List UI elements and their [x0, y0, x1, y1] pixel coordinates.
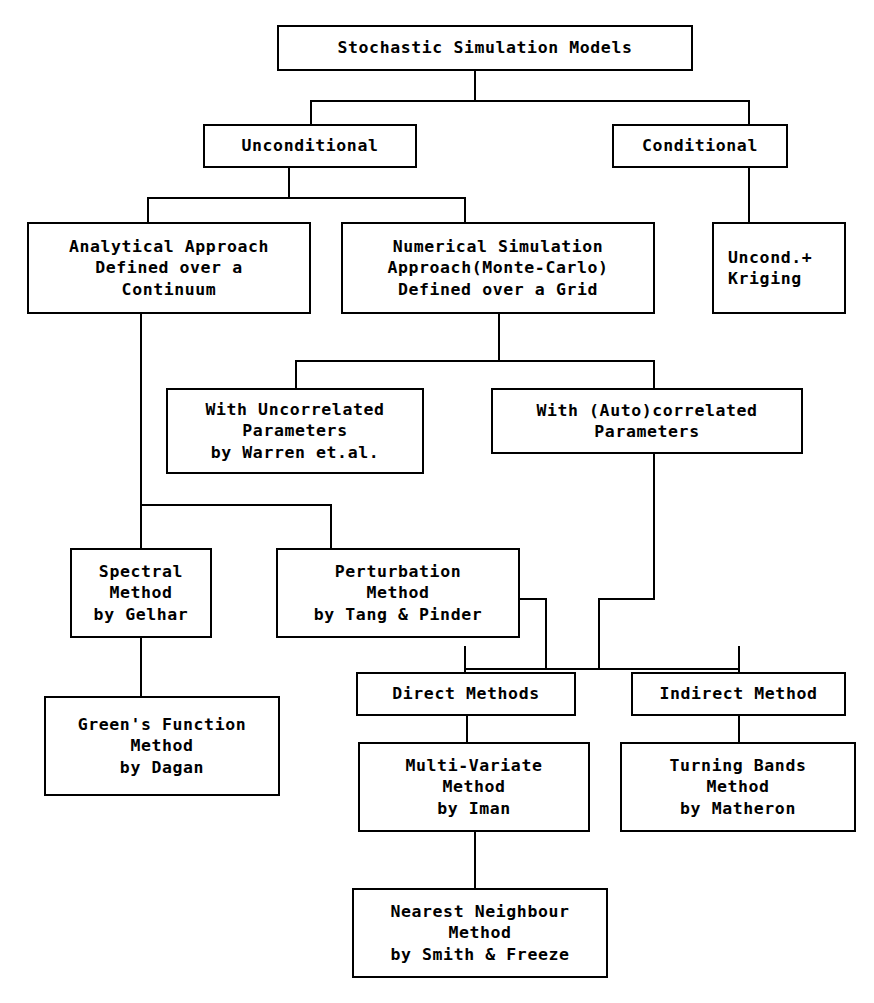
- node-text-line: by Dagan: [120, 757, 204, 778]
- bus-to-direct: [464, 646, 466, 672]
- node-text-line: by Smith & Freeze: [390, 944, 569, 965]
- node-text-line: by Tang & Pinder: [314, 604, 483, 625]
- node-text-line: Perturbation: [335, 561, 461, 582]
- bus-to-unconditional: [310, 100, 312, 126]
- node-text-line: Unconditional: [242, 135, 379, 156]
- analytical-down: [140, 314, 142, 506]
- node-text-line: Method: [706, 776, 769, 797]
- node-text-line: Turning Bands: [670, 755, 807, 776]
- node-text-line: Conditional: [642, 135, 758, 156]
- node-text-line: Spectral: [99, 561, 183, 582]
- node-text-line: Multi-Variate: [406, 755, 543, 776]
- indirect-to-turningbands: [738, 716, 740, 744]
- node-text-line: Method: [442, 776, 505, 797]
- node-text-line: Continuum: [122, 279, 217, 300]
- bus-to-conditional: [748, 100, 750, 126]
- conditional-to-kriging: [748, 168, 750, 224]
- bus-to-perturbation: [330, 504, 332, 550]
- node-text-line: Analytical Approach: [69, 236, 269, 257]
- node-text-line: Kriging: [728, 268, 802, 289]
- direct-methods: Direct Methods: [356, 672, 576, 716]
- analytical-approach: Analytical ApproachDefined over aContinu…: [27, 222, 311, 314]
- bus-to-analytical: [147, 197, 149, 224]
- node-text-line: Defined over a: [95, 257, 242, 278]
- level3-bus: [295, 360, 655, 362]
- multivariate-to-nearest: [474, 832, 476, 890]
- bus-to-autocorrelated: [653, 360, 655, 390]
- node-text-line: Method: [448, 922, 511, 943]
- node-text-line: With (Auto)correlated: [536, 400, 757, 421]
- bus-to-indirect: [738, 646, 740, 672]
- node-text-line: Stochastic Simulation Models: [338, 37, 633, 58]
- level1-bus: [310, 100, 750, 102]
- numerical-down: [498, 314, 500, 362]
- direct-to-multivariate: [466, 716, 468, 744]
- with-autocorrelated-parameters: With (Auto)correlatedParameters: [491, 388, 803, 454]
- node-text-line: Approach(Monte-Carlo): [387, 257, 608, 278]
- node-text-line: Parameters: [242, 420, 347, 441]
- level2-bus: [147, 197, 466, 199]
- spectral-method-gelhar: SpectralMethodby Gelhar: [70, 548, 212, 638]
- turning-bands-method-matheron: Turning BandsMethodby Matheron: [620, 742, 856, 832]
- root-to-bus: [474, 71, 476, 102]
- node-text-line: Parameters: [594, 421, 699, 442]
- nearest-neighbour-method-smith-freeze: Nearest NeighbourMethodby Smith & Freeze: [352, 888, 608, 978]
- multi-variate-method-iman: Multi-VariateMethodby Iman: [358, 742, 590, 832]
- node-text-line: Method: [130, 735, 193, 756]
- indirect-method: Indirect Method: [631, 672, 846, 716]
- spectral-to-greens: [140, 638, 142, 698]
- node-text-line: by Warren et.al.: [211, 442, 380, 463]
- level5-bus: [464, 668, 739, 670]
- node-text-line: Method: [109, 582, 172, 603]
- bus-to-spectral: [140, 504, 142, 550]
- unconditional-down: [288, 168, 290, 199]
- perturbation-right-down: [545, 598, 547, 670]
- bus-to-numerical: [464, 197, 466, 224]
- with-uncorrelated-parameters: With UncorrelatedParametersby Warren et.…: [166, 388, 424, 474]
- node-text-line: by Gelhar: [94, 604, 189, 625]
- node-text-line: Nearest Neighbour: [390, 901, 569, 922]
- unconditional: Unconditional: [203, 124, 417, 168]
- flowchart-canvas: Stochastic Simulation ModelsUnconditiona…: [0, 0, 874, 1003]
- autocorrelated-down: [653, 454, 655, 600]
- node-text-line: Defined over a Grid: [398, 279, 598, 300]
- autocorrelated-left-down: [598, 598, 600, 670]
- node-text-line: by Matheron: [680, 798, 796, 819]
- greens-function-method-dagan: Green's FunctionMethodby Dagan: [44, 696, 280, 796]
- level4-bus: [140, 504, 332, 506]
- perturbation-method-tang-pinder: PerturbationMethodby Tang & Pinder: [276, 548, 520, 638]
- node-text-line: Green's Function: [78, 714, 247, 735]
- numerical-simulation-approach: Numerical SimulationApproach(Monte-Carlo…: [341, 222, 655, 314]
- node-text-line: Method: [366, 582, 429, 603]
- node-text-line: Uncond.+: [728, 247, 812, 268]
- node-text-line: Indirect Method: [659, 683, 817, 704]
- autocorrelated-left: [598, 598, 655, 600]
- uncond-plus-kriging: Uncond.+Kriging: [712, 222, 846, 314]
- conditional: Conditional: [612, 124, 788, 168]
- node-text-line: Direct Methods: [392, 683, 539, 704]
- node-text-line: Numerical Simulation: [393, 236, 604, 257]
- stochastic-simulation-models: Stochastic Simulation Models: [277, 25, 693, 71]
- node-text-line: by Iman: [437, 798, 511, 819]
- perturbation-right-out: [520, 598, 547, 600]
- bus-to-uncorrelated: [295, 360, 297, 390]
- node-text-line: With Uncorrelated: [205, 399, 384, 420]
